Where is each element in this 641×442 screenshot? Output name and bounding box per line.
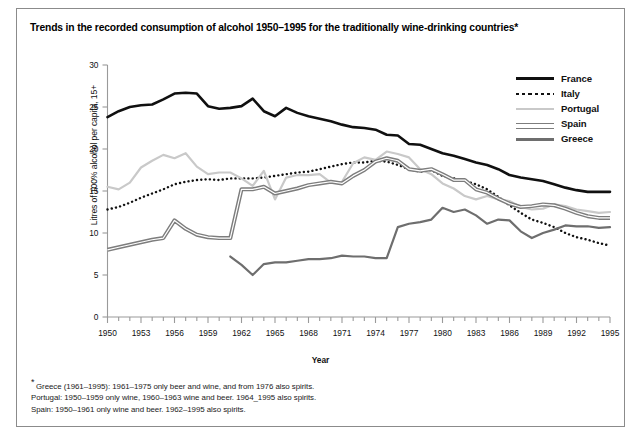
x-tick-label: 1983: [467, 328, 486, 338]
footnote-portugal: Portugal: 1950–1959 only wine, 1960–1963…: [31, 392, 501, 403]
chart-page: Trends in the recorded consumption of al…: [0, 0, 641, 442]
x-tick-label: 1989: [534, 328, 553, 338]
x-tick-label: 1995: [601, 328, 620, 338]
legend-label-greece: Greece: [561, 134, 593, 144]
x-tick-label: 1974: [366, 328, 385, 338]
chart-legend: France Italy Portugal Spain Greece: [516, 71, 626, 147]
legend-label-spain: Spain: [561, 119, 587, 129]
legend-label-portugal: Portugal: [561, 104, 599, 114]
x-tick-label: 1953: [132, 328, 151, 338]
footnote-greece: Greece (1961–1995): 1961–1975 only beer …: [31, 381, 501, 392]
x-tick-label: 1971: [333, 328, 352, 338]
footnote-spain: Spain: 1950–1961 only wine and beer. 196…: [31, 404, 501, 415]
legend-swatch-greece: [516, 134, 554, 144]
x-axis-label: Year: [0, 355, 641, 365]
y-tick-label: 0: [94, 312, 99, 322]
footnotes: Greece (1961–1995): 1961–1975 only beer …: [31, 381, 501, 415]
legend-item-france[interactable]: France: [516, 71, 626, 86]
x-tick-label: 1977: [400, 328, 419, 338]
legend-item-greece[interactable]: Greece: [516, 132, 626, 147]
x-tick-label: 1968: [299, 328, 318, 338]
series-line-greece: [230, 208, 610, 275]
legend-swatch-portugal: [516, 104, 554, 114]
x-tick-label: 1992: [567, 328, 586, 338]
legend-swatch-italy: [516, 89, 554, 99]
legend-label-italy: Italy: [561, 89, 580, 99]
y-axis-label: Litres of 100% alcohol per capita, 15+: [89, 55, 99, 255]
legend-swatch-france: [516, 74, 554, 84]
x-tick-label: 1962: [232, 328, 251, 338]
legend-item-italy[interactable]: Italy: [516, 86, 626, 101]
legend-item-portugal[interactable]: Portugal: [516, 101, 626, 116]
y-tick-label: 5: [94, 270, 99, 280]
x-tick-label: 1965: [266, 328, 285, 338]
x-tick-label: 1986: [500, 328, 519, 338]
legend-item-spain[interactable]: Spain: [516, 117, 626, 132]
legend-label-france: France: [561, 74, 592, 84]
x-tick-label: 1956: [165, 328, 184, 338]
series-line-portugal: [108, 152, 611, 213]
x-tick-label: 1959: [199, 328, 218, 338]
legend-swatch-spain: [516, 119, 554, 129]
x-tick-label: 1950: [98, 328, 117, 338]
x-tick-label: 1980: [433, 328, 452, 338]
